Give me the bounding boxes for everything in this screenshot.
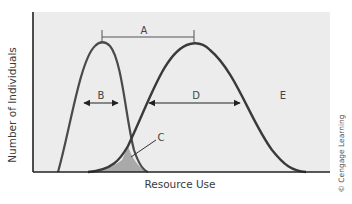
diagram-canvas: A B D E C [0,0,352,204]
y-axis-label-wrap: Number of Individuals [6,30,18,180]
credit-wrap: © Cengage Learning [334,110,348,196]
label-b: B [98,90,105,101]
label-e: E [280,90,286,101]
label-d: D [192,90,200,101]
label-a: A [141,25,148,36]
label-c: C [158,132,165,143]
niche-overlap-figure: A B D E C Number of Individuals Resource… [0,0,352,204]
y-axis-label: Number of Individuals [6,47,18,163]
x-axis-label: Resource Use [0,178,352,190]
copyright-credit: © Cengage Learning [337,114,346,192]
